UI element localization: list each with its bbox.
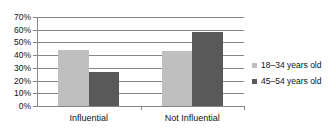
y-axis-tick-label: 20% (1, 77, 31, 86)
legend-swatch-icon-series-b (252, 79, 257, 84)
y-axis-tick-label: 10% (1, 89, 31, 98)
x-axis-category-label: Influential (37, 113, 141, 124)
bar[interactable] (162, 51, 193, 106)
bar[interactable] (192, 32, 223, 106)
y-axis-tick-label: 70% (1, 13, 31, 22)
legend-item-series-a[interactable]: 18–34 years old (252, 57, 336, 73)
y-axis-tick-label-wrap: 20% (0, 77, 31, 86)
bar[interactable] (89, 72, 120, 106)
y-axis-tick-label: 50% (1, 38, 31, 47)
y-axis-tick-label-wrap: 70% (0, 13, 31, 22)
gridline (37, 17, 244, 18)
legend: 18–34 years old 45–54 years old (252, 57, 336, 89)
plot-area (37, 17, 244, 106)
x-axis-tick (141, 106, 142, 110)
legend-label-series-a: 18–34 years old (261, 60, 322, 70)
y-axis-tick-label-wrap: 30% (0, 64, 31, 73)
legend-swatch-icon-series-a (252, 63, 257, 68)
bar[interactable] (58, 50, 89, 106)
y-axis-tick-label: 30% (1, 64, 31, 73)
y-axis-tick-label-wrap: 10% (0, 89, 31, 98)
y-axis-tick-label-wrap: 0% (0, 102, 31, 111)
gridline (37, 30, 244, 31)
y-axis-tick-label: 0% (1, 102, 31, 111)
legend-item-series-b[interactable]: 45–54 years old (252, 73, 336, 89)
y-axis-tick-label: 60% (1, 26, 31, 35)
x-axis-tick (244, 106, 245, 110)
y-axis-tick-label: 40% (1, 51, 31, 60)
x-axis-category-label: Not Influential (141, 113, 245, 124)
bar-chart: 70%60%50%40%30%20%10%0% InfluentialNot I… (0, 0, 336, 136)
y-axis-tick-label-wrap: 40% (0, 51, 31, 60)
legend-label-series-b: 45–54 years old (261, 76, 322, 86)
y-axis-tick-label-wrap: 60% (0, 26, 31, 35)
y-axis-tick-label-wrap: 50% (0, 38, 31, 47)
